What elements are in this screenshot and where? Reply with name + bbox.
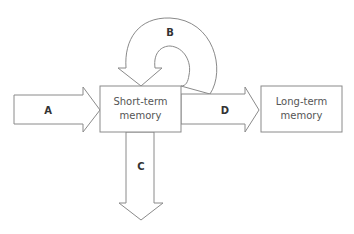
arrow-c bbox=[119, 132, 163, 220]
short-term-label-line2: memory bbox=[120, 110, 162, 121]
arrow-b-label: B bbox=[166, 27, 174, 38]
long-term-label-line2: memory bbox=[281, 110, 323, 121]
arrow-a-label: A bbox=[44, 105, 52, 116]
short-term-label-line1: Short-term bbox=[113, 96, 167, 107]
arrow-c-label: C bbox=[137, 161, 144, 172]
arrow-d-label: D bbox=[221, 105, 229, 116]
short-term-memory-box bbox=[100, 86, 181, 132]
arrow-a bbox=[14, 87, 100, 132]
memory-diagram: Short-term memory Long-term memory A B C… bbox=[0, 0, 354, 234]
long-term-label-line1: Long-term bbox=[276, 96, 328, 107]
long-term-memory-box bbox=[261, 86, 342, 132]
